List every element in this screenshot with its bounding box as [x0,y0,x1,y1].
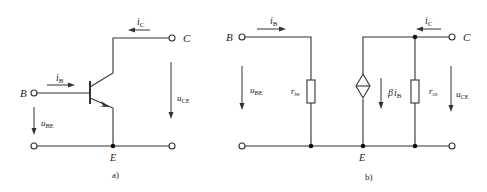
ib-arrow-head-icon [68,83,75,88]
circuit-diagram: B C E iB iC uBE uCE a) [0,0,487,192]
emitter-node-dot [111,144,116,149]
terminal-left-bottom [31,143,37,149]
label-ib: iB [56,72,64,85]
node-dot-rbe [309,144,314,149]
caption-b: b) [365,172,373,182]
terminal-right-bottom [169,143,175,149]
resistor-rce [411,80,419,103]
label-e: E [109,152,116,163]
node-dot-rce [413,144,418,149]
ib-arrow-head-icon [279,27,286,32]
terminal-b [31,90,37,96]
ic-arrow-head-icon [128,28,135,33]
terminal-b [239,34,245,40]
label-c: C [183,32,191,44]
collector-top-wire [363,37,449,74]
node-dot-collector [413,35,418,40]
terminal-c [449,34,455,40]
uce-arrow-head-icon [449,105,454,112]
label-uce: uCE [456,89,469,100]
label-beta-ib: βiB [387,87,402,100]
beta-ib-arrow-head-icon [379,102,384,109]
label-e: E [358,152,365,163]
label-uce: uCE [177,93,190,104]
label-b: B [20,87,27,99]
label-b: B [226,31,233,43]
label-ib: iB [270,15,278,28]
emitter-arrow-icon [100,101,110,107]
resistor-rbe [307,80,315,103]
label-ic: iC [425,15,433,28]
base-wire [245,37,311,80]
uce-arrow-head-icon [169,112,174,119]
collector-wire [90,38,169,87]
panel-b-equivalent-circuit: B C E iB iC uBE rbe βiB rce uCE b) [226,15,471,182]
ube-arrow-head-icon [240,103,245,110]
label-ube: uBE [250,85,263,96]
terminal-right-bottom [449,143,455,149]
label-ic: iC [137,16,145,29]
panel-a-transistor-circuit: B C E iB iC uBE uCE a) [20,16,191,180]
label-ube: uBE [41,118,54,129]
label-rbe: rbe [291,86,300,97]
terminal-left-bottom [239,143,245,149]
emitter-wire [90,98,113,146]
node-dot-emitter [361,144,366,149]
caption-a: a) [112,170,119,180]
label-c: C [463,31,471,43]
ic-arrow-head-icon [416,27,423,32]
terminal-c [169,35,175,41]
label-rce: rce [429,86,438,97]
ube-arrow-head-icon [32,128,37,135]
